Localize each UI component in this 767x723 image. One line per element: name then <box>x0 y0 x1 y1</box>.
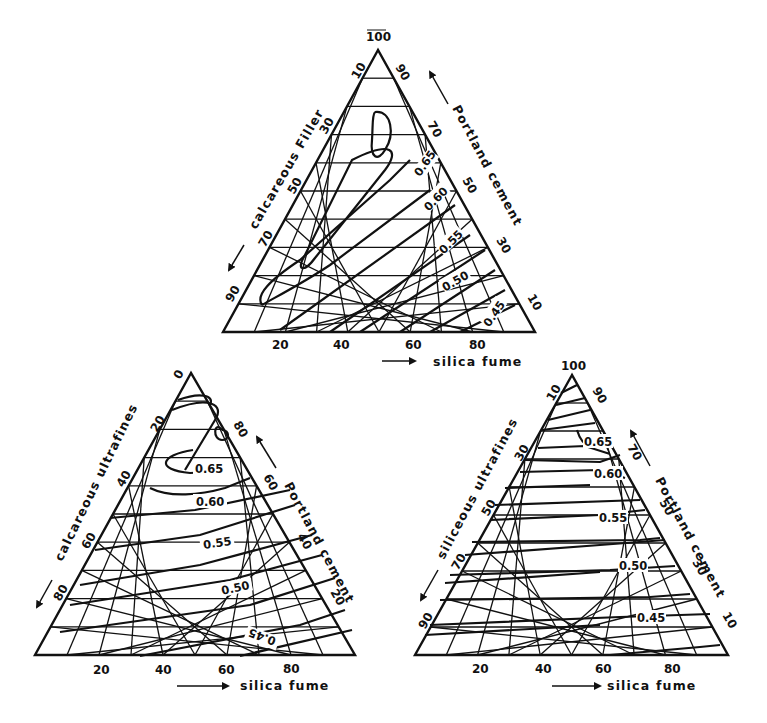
tick-label: 90 <box>589 385 609 406</box>
apex-label: 100 <box>561 359 586 373</box>
left-axis-label: calcareous Filler <box>246 106 327 232</box>
contour-label: 0.50 <box>619 559 647 573</box>
tick-label: 80 <box>283 662 300 676</box>
tick-label: 80 <box>230 419 250 440</box>
tick-label: 10 <box>524 292 544 313</box>
tick-label: 60 <box>260 472 280 493</box>
grid-lines <box>51 401 339 655</box>
tick-label: 90 <box>415 610 435 631</box>
tick-label: 40 <box>535 662 552 676</box>
tick-label: 80 <box>469 338 486 352</box>
contour-label: 0.65 <box>195 462 223 476</box>
panel-bottom-left: 0.65 0.60 0.55 0.50 0.45 0 20 40 60 80 8… <box>35 367 358 693</box>
bottom-axis-label: silica fume <box>240 678 330 693</box>
tick-label: 20 <box>472 662 489 676</box>
grid-lines <box>431 403 713 655</box>
tick-label: 60 <box>218 663 235 677</box>
contour-label: 0.60 <box>196 495 224 509</box>
contour-label: 0.50 <box>440 268 472 294</box>
bottom-axis-label: silica fume <box>433 354 523 369</box>
contour-label: 0.60 <box>594 467 622 481</box>
panel-top: 0.65 0.60 0.55 0.50 0.45 100 10 30 50 70… <box>222 30 544 369</box>
contour-label: 0.65 <box>584 435 612 449</box>
ternary-figure: 0.65 0.60 0.55 0.50 0.45 100 10 30 50 70… <box>0 0 767 723</box>
contour-label: 0.55 <box>202 534 232 552</box>
tick-label: 80 <box>50 582 70 603</box>
tick-label: 40 <box>333 338 350 352</box>
tick-label: 80 <box>664 662 681 676</box>
tick-label: 20 <box>272 338 289 352</box>
contour-label: 0.45 <box>637 611 665 625</box>
tick-label: 60 <box>405 338 422 352</box>
apex-label: 0 <box>170 367 186 381</box>
right-axis-label: Portland cement <box>281 479 358 605</box>
panel-bottom-right: 0.65 0.60 0.55 0.50 0.45 100 10 30 50 70… <box>415 359 740 693</box>
tick-label: 60 <box>595 662 612 676</box>
right-axis-label: Portland cement <box>449 102 526 228</box>
tick-label: 50 <box>459 175 479 196</box>
tick-label: 20 <box>93 663 110 677</box>
tick-label: 60 <box>78 530 98 551</box>
tick-label: 10 <box>719 610 739 631</box>
tick-label: 10 <box>543 382 563 403</box>
tick-label: 30 <box>493 235 513 256</box>
apex-label: 100 <box>366 30 391 44</box>
tick-label: 20 <box>147 413 167 434</box>
tick-label: 40 <box>155 663 172 677</box>
contour-label: 0.55 <box>599 511 627 525</box>
bottom-axis-label: silica fume <box>607 678 697 693</box>
